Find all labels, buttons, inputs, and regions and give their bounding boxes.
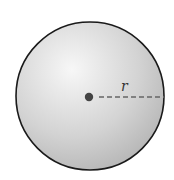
center-dot <box>85 93 93 101</box>
sphere-diagram: r <box>0 0 174 180</box>
